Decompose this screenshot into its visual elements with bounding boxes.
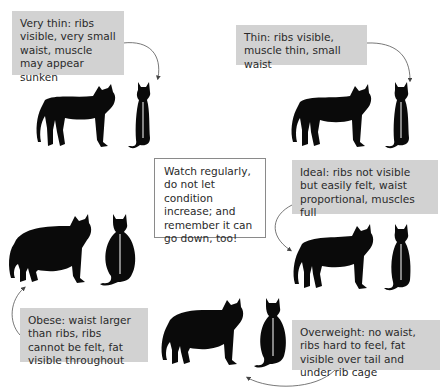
label-overweight: Overweight: no waist, ribs hard to feel,… xyxy=(292,320,440,370)
cat-side-overweight-icon xyxy=(160,296,252,372)
label-very-thin-text: Very thin: ribs visible, very small wais… xyxy=(20,17,116,83)
center-note-text: Watch regularly, do not let condition in… xyxy=(164,165,252,244)
label-thin-text: Thin: ribs visible, muscle thin, small w… xyxy=(244,31,341,70)
label-very-thin: Very thin: ribs visible, very small wais… xyxy=(12,11,124,75)
arrow-ideal xyxy=(275,205,292,250)
cat-back-overweight-icon xyxy=(254,296,292,372)
label-thin: Thin: ribs visible, muscle thin, small w… xyxy=(236,25,367,65)
label-obese-text: Obese: waist larger than ribs, ribs cann… xyxy=(28,314,131,366)
arrow-thin xyxy=(367,43,410,80)
cat-side-thin-icon xyxy=(290,82,378,152)
center-note: Watch regularly, do not let condition in… xyxy=(154,158,266,238)
label-obese: Obese: waist larger than ribs, ribs cann… xyxy=(20,308,148,362)
cat-back-obese-icon xyxy=(100,212,140,290)
cat-back-very-thin-icon xyxy=(128,80,158,152)
cat-side-obese-icon xyxy=(8,212,96,290)
cat-side-very-thin-icon xyxy=(35,80,123,152)
arrow-very-thin xyxy=(123,43,159,78)
cat-back-ideal-icon xyxy=(384,222,418,294)
cat-back-thin-icon xyxy=(385,80,417,152)
label-ideal: Ideal: ribs not visible but easily felt,… xyxy=(292,160,438,214)
cat-side-ideal-icon xyxy=(292,222,380,294)
label-ideal-text: Ideal: ribs not visible but easily felt,… xyxy=(300,166,415,218)
